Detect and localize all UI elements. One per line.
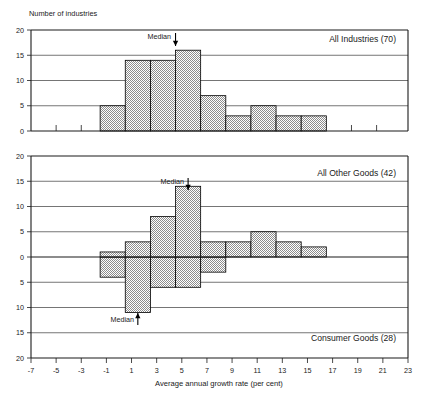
- bar-up-7: [276, 242, 301, 257]
- bar-down-1: [125, 257, 150, 313]
- xtick-19: 19: [354, 366, 362, 375]
- xtick-17: 17: [329, 366, 337, 375]
- ytick-top-0: 0: [20, 127, 24, 136]
- bar-down-0: [100, 257, 125, 277]
- bar-up-1: [125, 242, 150, 257]
- ytick-bot-up-20: 20: [16, 152, 24, 161]
- panel-title-all-industries: All Industries (70): [329, 34, 396, 44]
- bar-up-4: [201, 242, 226, 257]
- bar-up-8: [301, 247, 326, 257]
- xtick-11: 11: [253, 366, 260, 375]
- panel-title-all-other-goods: All Other Goods (42): [317, 168, 396, 178]
- y-axis-label-top: Number of industries: [29, 9, 97, 18]
- xtick-7: 7: [205, 366, 209, 375]
- bar-top-7: [276, 116, 301, 131]
- ytick-bot-down-5: 5: [20, 278, 24, 287]
- bar-top-0: [100, 106, 125, 131]
- ytick-top-20: 20: [16, 26, 24, 35]
- bar-up-2: [150, 217, 175, 257]
- bar-top-8: [301, 116, 326, 131]
- bar-down-4: [201, 257, 226, 272]
- xtick-23: 23: [404, 366, 412, 375]
- ytick-top-5: 5: [20, 101, 24, 110]
- bar-top-2: [150, 60, 175, 131]
- bar-up-3: [176, 186, 201, 257]
- xtick-13: 13: [278, 366, 286, 375]
- xtick-5: 5: [180, 366, 184, 375]
- bar-top-3: [176, 50, 201, 131]
- bar-top-6: [251, 106, 276, 131]
- x-axis-label: Average annual growth rate (per cent): [155, 379, 283, 388]
- xtick--3: -3: [78, 366, 84, 375]
- ytick-top-10: 10: [16, 76, 24, 85]
- ytick-bot-up-15: 15: [16, 177, 24, 186]
- median-label-top: Median: [147, 32, 171, 41]
- ytick-bot-up-5: 5: [20, 227, 24, 236]
- ytick-bot-up-10: 10: [16, 202, 24, 211]
- bar-top-5: [226, 116, 251, 131]
- bar-down-3: [176, 257, 201, 287]
- ytick-bot-down-15: 15: [16, 328, 24, 337]
- ytick-bot-down-10: 10: [16, 303, 24, 312]
- ytick-bot-down-20: 20: [16, 354, 24, 363]
- panel-title-consumer-goods: Consumer Goods (28): [311, 333, 396, 343]
- xtick-21: 21: [379, 366, 387, 375]
- median-label-consumer-goods: Median: [110, 315, 134, 324]
- ytick-top-15: 15: [16, 51, 24, 60]
- bar-up-5: [226, 242, 251, 257]
- xtick--1: -1: [103, 366, 109, 375]
- bar-top-4: [201, 96, 226, 131]
- figure-root: Number of industries: [0, 0, 422, 401]
- median-annotation-consumer-goods: Median: [110, 313, 137, 325]
- xtick--7: -7: [28, 366, 34, 375]
- xtick-1: 1: [130, 366, 134, 375]
- bar-down-2: [150, 257, 175, 287]
- ytick-bot-zero: 0: [20, 253, 24, 262]
- xtick-9: 9: [230, 366, 234, 375]
- xtick--5: -5: [53, 366, 59, 375]
- xtick-3: 3: [155, 366, 159, 375]
- median-label-other-goods: Median: [160, 177, 184, 186]
- bar-up-6: [251, 232, 276, 257]
- xtick-15: 15: [303, 366, 311, 375]
- bar-top-1: [125, 60, 150, 131]
- bar-up-0: [100, 252, 125, 257]
